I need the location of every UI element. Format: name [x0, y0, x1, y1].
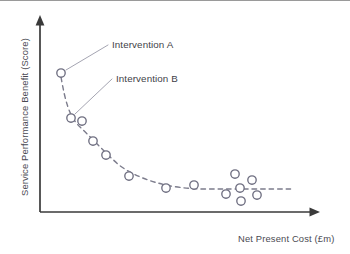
data-point[interactable]: [248, 176, 256, 184]
data-point[interactable]: [236, 184, 244, 192]
chart-figure: Service Performance Benefit (Score) Net …: [0, 0, 350, 254]
trend-curve: [61, 77, 292, 189]
y-axis: [36, 15, 45, 212]
leader-line-intervention-a: [66, 45, 108, 70]
data-point[interactable]: [162, 184, 170, 192]
data-point-intervention-b[interactable]: [67, 114, 75, 122]
data-point[interactable]: [125, 172, 133, 180]
scatter-chart-canvas: Service Performance Benefit (Score) Net …: [0, 0, 350, 254]
annotation-intervention-a: Intervention A: [112, 39, 174, 50]
data-point[interactable]: [78, 117, 86, 125]
data-point[interactable]: [89, 137, 97, 145]
data-point[interactable]: [222, 190, 230, 198]
x-axis-label: Net Present Cost (£m): [238, 233, 334, 244]
y-axis-label: Service Performance Benefit (Score): [19, 38, 30, 196]
annotation-intervention-b: Intervention B: [116, 73, 178, 84]
data-points-group: [57, 69, 261, 205]
x-axis-arrowhead: [310, 208, 321, 217]
data-point[interactable]: [231, 170, 239, 178]
data-point-intervention-a[interactable]: [57, 69, 65, 77]
data-point[interactable]: [190, 181, 198, 189]
data-point[interactable]: [102, 151, 110, 159]
data-point[interactable]: [253, 191, 261, 199]
y-axis-arrowhead: [36, 15, 45, 26]
leader-line-intervention-b: [75, 79, 112, 114]
data-point[interactable]: [237, 197, 245, 205]
x-axis: [40, 208, 320, 217]
